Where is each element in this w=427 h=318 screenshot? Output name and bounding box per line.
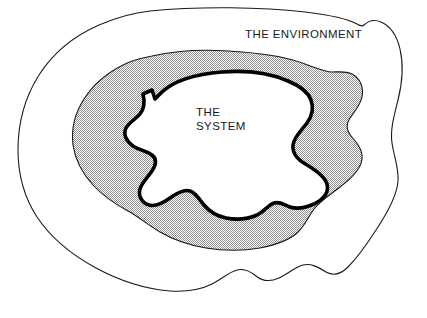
system-label-line2: SYSTEM (196, 120, 246, 132)
environment-label: THE ENVIRONMENT (245, 27, 362, 41)
diagram-canvas (0, 0, 427, 318)
system-environment-diagram: THE ENVIRONMENT THESYSTEM (0, 0, 427, 318)
system-label-line1: THE (196, 106, 220, 118)
system-label: THESYSTEM (196, 105, 246, 133)
